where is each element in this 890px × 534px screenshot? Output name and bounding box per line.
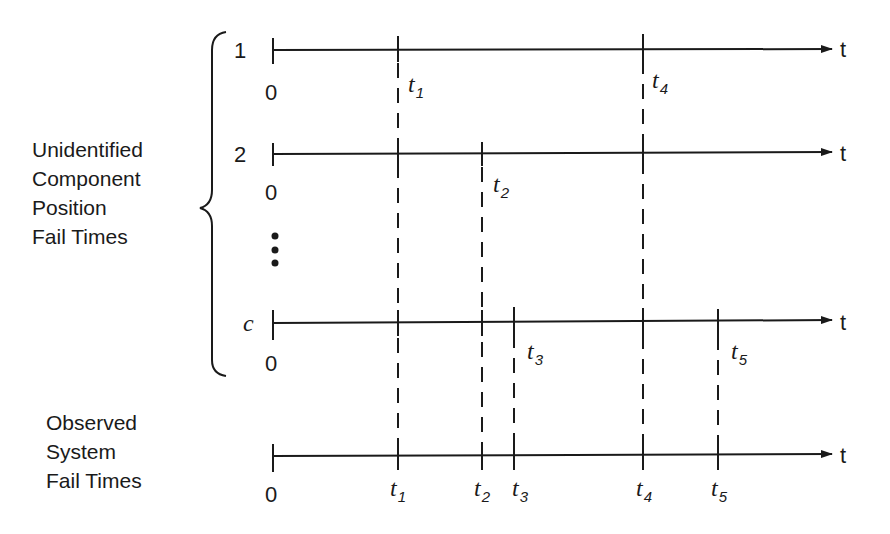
time-label-t2: t2: [493, 171, 510, 201]
time-label-t4: t4: [636, 475, 652, 505]
origin-label: 0: [265, 351, 277, 376]
time-label-t3: t3: [512, 475, 529, 505]
timeline-row-2: 2 t 0 t2: [234, 141, 846, 205]
timeline-row-c: c t 0 t3 t5: [243, 307, 846, 376]
axis-end-label: t: [840, 443, 846, 468]
time-axis: [273, 320, 832, 323]
time-label-t4: t4: [652, 67, 668, 97]
time-label-t2: t2: [474, 475, 491, 505]
time-label-t3: t3: [527, 338, 544, 368]
origin-label: 0: [265, 80, 277, 105]
row-label-1: 1: [234, 38, 246, 63]
axis-end-label: t: [840, 310, 846, 335]
fail-times-diagram: 1 t 0 t1 t4 2 t 0 t2 c t 0: [0, 0, 890, 534]
time-label-t1: t1: [390, 475, 406, 505]
time-axis: [273, 152, 832, 154]
time-axis: [273, 49, 832, 50]
dashed-time-lines: [398, 34, 718, 468]
axis-end-label: t: [840, 141, 846, 166]
timeline-row-1: 1 t 0 t1 t4: [234, 34, 846, 105]
ellipsis-dots: [272, 233, 279, 267]
time-label-t5: t5: [731, 338, 748, 368]
curly-brace: [200, 32, 226, 376]
row-label-2: 2: [234, 142, 246, 167]
row-label-c: c: [243, 310, 254, 336]
time-label-t5: t5: [711, 475, 728, 505]
timeline-row-observed: t 0 t1 t2 t3 t4 t5: [265, 443, 846, 507]
axis-end-label: t: [840, 37, 846, 62]
origin-label: 0: [265, 482, 277, 507]
time-axis: [273, 454, 832, 456]
time-label-t1: t1: [408, 71, 424, 101]
origin-label: 0: [265, 180, 277, 205]
